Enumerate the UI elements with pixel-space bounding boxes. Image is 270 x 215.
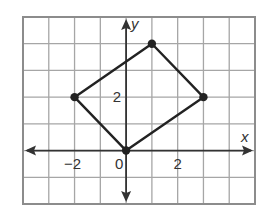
vertex-point (148, 40, 156, 48)
grid-lines (23, 17, 255, 204)
coordinate-plane: x y −2022 (0, 0, 270, 215)
y-tick-label: 2 (113, 88, 121, 105)
x-axis-label: x (240, 128, 249, 145)
axes (25, 19, 253, 202)
x-tick-label: 0 (115, 155, 123, 172)
x-tick-label: −2 (64, 155, 81, 172)
y-axis-label: y (130, 15, 140, 32)
axis-labels: x y (130, 15, 249, 145)
vertex-point (70, 93, 78, 101)
grid-border (23, 17, 255, 204)
x-tick-label: 2 (173, 155, 181, 172)
vertex-point (199, 93, 207, 101)
tick-labels: −2022 (64, 88, 182, 171)
vertex-point (122, 146, 130, 154)
